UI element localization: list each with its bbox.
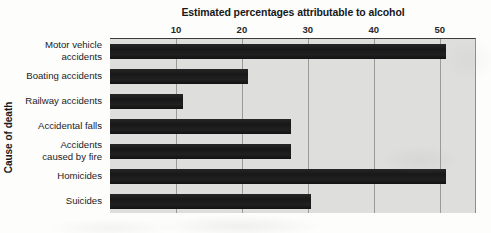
x-tick-label-10: 10 [171,24,182,35]
plot-area [110,38,476,213]
y-category-label: Homicides [57,170,102,182]
x-axis-tick-labels: 1020304050 [0,24,491,38]
y-axis-title-label: Cause of death [4,101,15,173]
bar [110,94,183,109]
x-tick-label-50: 50 [434,24,445,35]
bar [110,119,291,134]
y-category-label: Boating accidents [26,70,102,82]
x-tick-label-40: 40 [368,24,379,35]
bar-chart-figure: Estimated percentages attributable to al… [0,0,491,233]
bar [110,194,311,209]
x-tick-label-20: 20 [237,24,248,35]
bar [110,144,291,159]
y-category-label: Motor vehicle accidents [45,39,102,62]
y-axis-title: Cause of death [2,92,16,182]
y-category-label: Railway accidents [25,95,102,107]
y-category-label: Accidental falls [38,120,102,132]
bar [110,69,248,84]
y-category-label: Accidents caused by fire [42,139,102,162]
bar [110,44,446,59]
y-category-label: Suicides [66,195,102,207]
bar-series [110,39,475,213]
bar [110,169,446,184]
x-tick-label-30: 30 [303,24,314,35]
chart-title: Estimated percentages attributable to al… [110,6,476,18]
